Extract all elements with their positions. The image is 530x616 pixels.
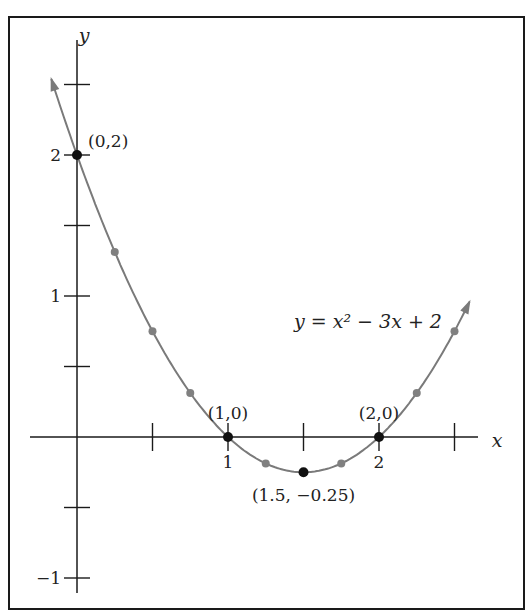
- x-tick-label: 1: [223, 452, 234, 472]
- x-axis-label: x: [492, 429, 503, 451]
- minor-point: [111, 248, 119, 256]
- minor-point: [337, 459, 345, 467]
- key-point: [72, 150, 82, 160]
- parabola-chart: 12−112yx(0,2)(1,0)(1.5, −0.25)(2,0)y = x…: [0, 0, 530, 616]
- point-label-1-0: (1,0): [208, 403, 248, 423]
- key-point: [299, 467, 309, 477]
- minor-point: [262, 459, 270, 467]
- minor-point: [451, 327, 459, 335]
- equation-label: y = x² − 3x + 2: [293, 310, 442, 332]
- curve-arrow-left-icon: [51, 77, 60, 92]
- point-label-2-0: (2,0): [359, 403, 399, 423]
- minor-point: [149, 327, 157, 335]
- x-tick-label: 2: [374, 452, 385, 472]
- minor-point: [413, 389, 421, 397]
- point-label-0-2: (0,2): [88, 131, 128, 151]
- y-tick-label: 2: [50, 145, 61, 165]
- point-label-vertex: (1.5, −0.25): [252, 485, 355, 505]
- key-point: [374, 432, 384, 442]
- chart-frame: [9, 17, 524, 609]
- y-tick-label: 1: [50, 286, 61, 306]
- y-axis-label: y: [78, 24, 90, 46]
- labels: 12−112yx(0,2)(1,0)(1.5, −0.25)(2,0)y = x…: [36, 24, 503, 588]
- y-tick-label: −1: [36, 568, 61, 588]
- curve-arrow-right-icon: [460, 300, 470, 315]
- key-point: [223, 432, 233, 442]
- minor-point: [186, 389, 194, 397]
